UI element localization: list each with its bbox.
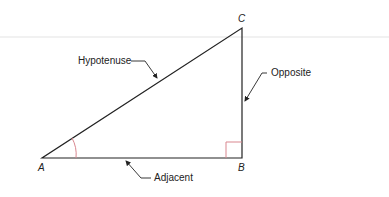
adjacent-leader [126,161,151,178]
triangle-diagram [0,0,389,197]
vertex-b-label: B [238,162,245,173]
opposite-label: Opposite [271,67,311,78]
vertex-a-label: A [38,162,45,173]
hypotenuse-label: Hypotenuse [78,55,131,66]
hypotenuse-leader [131,61,157,78]
vertex-c-label: C [238,13,245,24]
angle-arc-a [72,138,76,158]
right-angle-mark [226,142,242,158]
opposite-leader [245,73,267,101]
adjacent-label: Adjacent [154,172,193,183]
